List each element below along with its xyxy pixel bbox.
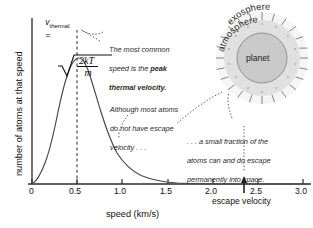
xtick-2.0: 2.0 xyxy=(205,186,217,196)
escape-velocity-label: escape velocity xyxy=(212,196,271,206)
xtick-2.5: 2.5 xyxy=(250,186,262,196)
formula-variable: vthermal xyxy=(45,17,69,27)
svg-text:2kT: 2kT xyxy=(79,55,95,66)
xtick-1.5: 1.5 xyxy=(160,186,172,196)
formula-equals: = xyxy=(45,29,51,40)
square-root: 2kT m xyxy=(45,41,114,89)
xtick-1.0: 1.0 xyxy=(114,186,126,196)
annotation-peak-thermal: The most common speed is the peak therma… xyxy=(105,36,200,92)
annotation-escape-fraction: . . . a small fraction of the atoms can … xyxy=(183,128,308,184)
xtick-0: 0 xyxy=(29,186,34,196)
thermal-velocity-formula: vthermal = 2kT m xyxy=(40,5,114,88)
xtick-3.0: 3.0 xyxy=(295,186,307,196)
svg-text:m: m xyxy=(84,67,91,78)
planet-label-text: planet xyxy=(246,53,269,63)
x-axis-label: speed (km/s) xyxy=(106,209,159,219)
y-axis-label: number of atoms at that speed xyxy=(14,51,24,176)
xtick-0.5: 0.5 xyxy=(69,186,81,196)
